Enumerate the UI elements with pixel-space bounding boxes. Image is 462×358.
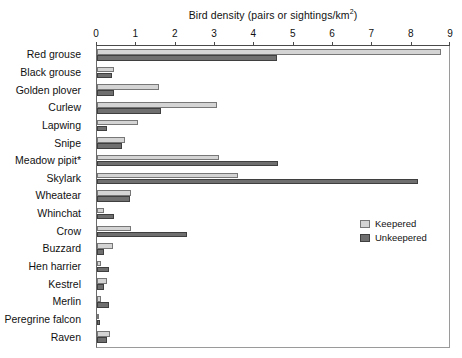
bird-density-bar-chart: Bird density (pairs or sightings/km2) 01…: [0, 0, 462, 358]
bar-keepered: [97, 49, 441, 55]
chart-title-suffix: ): [354, 9, 358, 21]
x-axis-tick-label: 2: [172, 28, 178, 39]
bar-keepered: [97, 226, 131, 232]
bar-keepered: [97, 84, 159, 90]
y-axis-category-label: Hen harrier: [28, 261, 81, 272]
chart-category-row: Merlin: [97, 293, 449, 311]
y-axis-category-label: Kestrel: [48, 279, 81, 290]
y-axis-category-label: Lapwing: [42, 120, 81, 131]
chart-category-row: Kestrel: [97, 275, 449, 293]
legend-item-keepered: Keepered: [360, 218, 427, 229]
bar-unkeepered: [97, 337, 107, 343]
legend-label-keepered: Keepered: [375, 218, 416, 229]
bar-unkeepered: [97, 232, 187, 238]
bar-unkeepered: [97, 108, 161, 114]
chart-category-row: Peregrine falcon: [97, 311, 449, 329]
y-axis-category-label: Raven: [51, 332, 81, 343]
chart-title-main: Bird density (pairs or sightings/km: [189, 9, 350, 21]
x-axis-tick-label: 7: [369, 28, 375, 39]
y-axis-category-label: Whinchat: [37, 208, 81, 219]
y-axis-category-label: Peregrine falcon: [5, 314, 81, 325]
legend-swatch-keepered-icon: [360, 220, 370, 228]
bar-keepered: [97, 208, 104, 214]
y-axis-category-label: Meadow pipit*: [15, 155, 81, 166]
bar-unkeepered: [97, 249, 104, 255]
x-axis-tick-label: 6: [329, 28, 335, 39]
chart-category-row: Golden plover: [97, 81, 449, 99]
legend-swatch-unkeepered-icon: [360, 234, 370, 242]
bar-keepered: [97, 173, 238, 179]
chart-category-row: Curlew: [97, 99, 449, 117]
y-axis-category-label: Crow: [56, 226, 81, 237]
x-axis-tick-label: 5: [290, 28, 296, 39]
bar-keepered: [97, 243, 113, 249]
bar-keepered: [97, 296, 101, 302]
y-axis-category-label: Golden plover: [16, 85, 81, 96]
plot-area: Red grouseBlack grouseGolden ploverCurle…: [96, 46, 450, 348]
y-axis-category-label: Snipe: [54, 138, 81, 149]
bar-unkeepered: [97, 143, 122, 149]
y-axis-category-label: Merlin: [52, 296, 81, 307]
x-axis-tick-label: 3: [211, 28, 217, 39]
chart-category-row: Red grouse: [97, 46, 449, 64]
bar-keepered: [97, 120, 138, 126]
chart-category-row: Raven: [97, 328, 449, 346]
y-axis-category-label: Buzzard: [42, 243, 81, 254]
bar-keepered: [97, 155, 219, 161]
x-axis-tick-label: 1: [133, 28, 139, 39]
chart-category-row: Skylark: [97, 170, 449, 188]
y-axis-category-label: Curlew: [48, 102, 81, 113]
chart-category-row: Lapwing: [97, 117, 449, 135]
bar-unkeepered: [97, 73, 112, 79]
chart-category-row: Snipe: [97, 134, 449, 152]
bar-keepered: [97, 261, 101, 267]
chart-category-row: Meadow pipit*: [97, 152, 449, 170]
y-axis-category-label: Skylark: [47, 173, 81, 184]
y-axis-category-label: Black grouse: [20, 67, 81, 78]
bar-unkeepered: [97, 161, 278, 167]
bar-unkeepered: [97, 267, 109, 273]
bar-unkeepered: [97, 179, 418, 185]
bar-keepered: [97, 331, 110, 337]
x-axis-tick-label: 4: [251, 28, 257, 39]
bar-keepered: [97, 137, 125, 143]
bar-keepered: [97, 67, 114, 73]
bar-unkeepered: [97, 196, 130, 202]
bar-unkeepered: [97, 320, 100, 326]
legend-label-unkeepered: Unkeepered: [375, 232, 427, 243]
y-axis-category-label: Red grouse: [27, 49, 81, 60]
bar-unkeepered: [97, 90, 114, 96]
bar-unkeepered: [97, 126, 107, 132]
chart-category-row: Hen harrier: [97, 258, 449, 276]
bar-keepered: [97, 190, 131, 196]
bar-unkeepered: [97, 214, 114, 220]
y-axis-category-label: Wheatear: [35, 190, 81, 201]
bar-unkeepered: [97, 55, 277, 61]
x-axis-tick-label: 8: [408, 28, 414, 39]
x-axis-tick-label: 0: [93, 28, 99, 39]
chart-legend: Keepered Unkeepered: [360, 218, 427, 246]
chart-title: Bird density (pairs or sightings/km2): [96, 8, 450, 21]
bar-keepered: [97, 278, 107, 284]
bar-keepered: [97, 102, 217, 108]
x-axis: 0123456789: [96, 28, 450, 46]
chart-category-row: Wheatear: [97, 187, 449, 205]
bar-keepered: [97, 314, 99, 320]
legend-item-unkeepered: Unkeepered: [360, 232, 427, 243]
bar-unkeepered: [97, 284, 104, 290]
x-axis-tick-label: 9: [447, 28, 453, 39]
bar-unkeepered: [97, 302, 109, 308]
chart-category-row: Black grouse: [97, 64, 449, 82]
